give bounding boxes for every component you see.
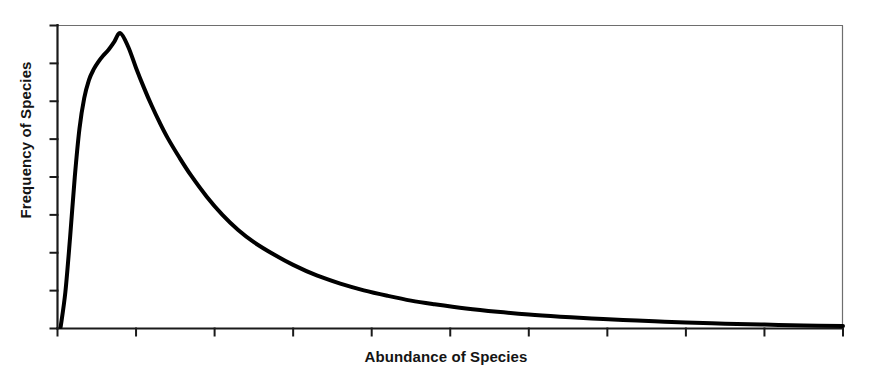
x-axis-label: Abundance of Species [236, 348, 656, 365]
species-abundance-plot: #frame-top, #frame-right { stroke: #6e6e… [0, 0, 871, 376]
abundance-curve [61, 33, 843, 327]
chart-figure: #frame-top, #frame-right { stroke: #6e6e… [0, 0, 871, 376]
y-axis-label: Frequency of Species [17, 0, 39, 290]
